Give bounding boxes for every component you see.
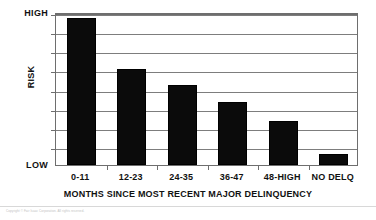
x-axis-tick xyxy=(107,165,108,170)
x-axis-tick xyxy=(157,165,158,170)
y-axis-low-label: LOW xyxy=(8,160,48,170)
x-axis-tick-label: 12-23 xyxy=(106,172,157,182)
x-axis-tick-label: 0-11 xyxy=(55,172,106,182)
copyright-note: Copyright © Fair Isaac Corporation. All … xyxy=(6,209,84,214)
y-axis-title: RISK xyxy=(26,42,36,112)
bar xyxy=(168,85,197,165)
x-axis-tick-label: NO DELQ xyxy=(308,172,359,182)
x-axis-title: MONTHS SINCE MOST RECENT MAJOR DELINQUEN… xyxy=(0,189,376,199)
x-axis-tick xyxy=(309,165,310,170)
x-axis-tick-label: 48-HIGH xyxy=(257,172,308,182)
x-axis-tick-label: 24-35 xyxy=(156,172,207,182)
bar-series xyxy=(56,15,357,165)
bar xyxy=(269,121,298,165)
bar-chart: HIGH LOW RISK 0-1112-2324-3536-4748-HIGH… xyxy=(0,0,376,220)
bar xyxy=(117,69,146,165)
footer-divider xyxy=(0,206,376,207)
plot-area xyxy=(55,13,358,166)
bar xyxy=(67,18,96,165)
y-axis-high-label: HIGH xyxy=(8,8,48,18)
x-axis-tick xyxy=(258,165,259,170)
x-axis-tick xyxy=(208,165,209,170)
bar xyxy=(319,154,348,165)
bar xyxy=(218,102,247,165)
x-axis-tick-label: 36-47 xyxy=(207,172,258,182)
